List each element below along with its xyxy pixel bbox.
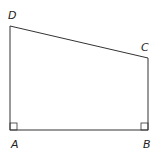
vertex-label-a: A [10, 138, 19, 151]
right-angle-marker-a [10, 123, 17, 130]
vertex-label-d: D [8, 9, 16, 22]
trapezoid-abcd [10, 26, 148, 130]
vertex-label-c: C [141, 41, 149, 54]
vertex-label-b: B [143, 138, 151, 151]
right-angle-marker-b [141, 123, 148, 130]
trapezoid-diagram: D C A B [0, 0, 158, 157]
